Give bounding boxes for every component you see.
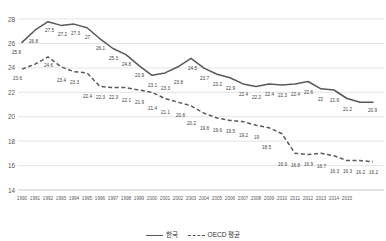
data-label-korea: 23.8 <box>174 80 183 85</box>
x-tick-2015: 2015 <box>333 196 361 201</box>
series-line-oecd <box>22 57 373 162</box>
data-label-oecd: 22.1 <box>122 98 131 103</box>
gridlines <box>18 19 384 166</box>
data-label-oecd: 20.2 <box>187 121 196 126</box>
data-label-oecd: 16.9 <box>304 162 313 167</box>
y-tick-26: 26 <box>0 40 15 47</box>
data-label-oecd: 19.8 <box>200 126 209 131</box>
y-tick-16: 16 <box>0 162 15 169</box>
data-label-korea: 20.9 <box>368 108 377 113</box>
data-label-oecd: 16.8 <box>291 163 300 168</box>
data-label-korea: 23.7 <box>200 76 209 81</box>
y-tick-14: 14 <box>0 187 15 194</box>
data-label-korea: 22.4 <box>291 92 300 97</box>
data-label-korea: 25.3 <box>109 56 118 61</box>
data-label-oecd: 16.3 <box>330 169 339 174</box>
data-label-korea: 27 <box>85 35 90 40</box>
y-tick-22: 22 <box>0 89 15 96</box>
data-label-korea: 22.4 <box>239 92 248 97</box>
data-label-oecd: 19.2 <box>239 133 248 138</box>
data-label-oecd: 21.4 <box>148 106 157 111</box>
data-label-korea: 22.6 <box>304 90 313 95</box>
data-label-oecd: 16.3 <box>343 169 352 174</box>
data-label-korea: 22.9 <box>226 86 235 91</box>
data-label-oecd: 24.6 <box>44 63 53 68</box>
data-label-oecd: 22.3 <box>109 95 118 100</box>
data-label-oecd: 18.5 <box>262 145 271 150</box>
data-label-korea: 27.2 <box>58 32 67 37</box>
data-label-korea: 24.8 <box>122 62 131 67</box>
legend-item-oecd[interactable]: OECD 평균 <box>188 231 241 239</box>
data-label-oecd: 21.1 <box>161 110 170 115</box>
data-label-oecd: 16.2 <box>356 170 365 175</box>
y-tick-28: 28 <box>0 16 15 23</box>
data-label-oecd: 21.9 <box>135 100 144 105</box>
legend-solid-line-icon <box>146 235 163 236</box>
data-label-korea: 21.9 <box>330 98 339 103</box>
data-label-oecd: 20.8 <box>176 113 185 118</box>
data-label-korea: 24.5 <box>188 66 197 71</box>
data-label-korea: 25.8 <box>12 50 21 55</box>
data-label-oecd: 16.9 <box>278 162 287 167</box>
data-label-korea: 22.4 <box>265 92 274 97</box>
data-label-oecd: 16.7 <box>317 164 326 169</box>
data-label-oecd: 22.4 <box>83 94 92 99</box>
data-label-korea: 23.2 <box>213 82 222 87</box>
y-tick-20: 20 <box>0 113 15 120</box>
data-label-korea: 26.8 <box>29 39 38 44</box>
data-label-oecd: 19.5 <box>226 129 235 134</box>
data-label-oecd: 16.2 <box>369 170 378 175</box>
data-label-oecd: 19 <box>254 135 259 140</box>
data-label-korea: 22.2 <box>252 95 261 100</box>
data-label-korea: 23.1 <box>148 83 157 88</box>
legend-label-oecd: OECD 평균 <box>208 231 241 239</box>
y-tick-24: 24 <box>0 64 15 71</box>
legend-dashed-line-icon <box>188 235 205 236</box>
chart-legend: 한국 OECD 평균 <box>0 231 386 239</box>
data-label-korea: 22 <box>318 97 323 102</box>
chart-container: 28 26 24 22 20 18 16 14 1990 1991 1992 1… <box>0 0 386 241</box>
data-label-oecd: 23.6 <box>13 76 22 81</box>
data-label-oecd: 19.6 <box>213 128 222 133</box>
data-label-oecd: 23.4 <box>57 78 66 83</box>
data-label-korea: 27.5 <box>45 28 54 33</box>
data-label-korea: 23.3 <box>161 86 170 91</box>
y-tick-18: 18 <box>0 138 15 145</box>
legend-item-korea[interactable]: 한국 <box>146 231 178 239</box>
data-label-korea: 23.9 <box>135 73 144 78</box>
data-label-oecd: 22.3 <box>96 95 105 100</box>
data-label-korea: 21.2 <box>343 107 352 112</box>
data-label-korea: 27.3 <box>71 31 80 36</box>
data-label-korea: 22.3 <box>278 93 287 98</box>
data-label-korea: 26.1 <box>96 46 105 51</box>
legend-label-korea: 한국 <box>166 231 178 239</box>
data-label-oecd: 23.3 <box>70 80 79 85</box>
